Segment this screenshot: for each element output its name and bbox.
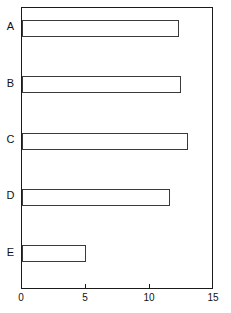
y-axis-tick-label: D [3, 190, 18, 201]
y-axis-tick-label: B [3, 78, 18, 89]
x-axis-tick [85, 284, 86, 289]
bar [22, 76, 181, 93]
x-axis-tick-label: 15 [207, 293, 218, 303]
bar [22, 20, 179, 37]
x-axis-tick-label: 5 [82, 293, 88, 303]
x-axis-tick [149, 284, 150, 289]
y-axis-tick-label: E [3, 247, 18, 258]
bar [22, 245, 86, 262]
y-axis-tick-label: C [3, 134, 18, 145]
plot-area [21, 7, 213, 289]
bar [22, 189, 170, 206]
y-axis-tick-label: A [3, 21, 18, 32]
x-axis-tick-label: 0 [18, 293, 24, 303]
bar-chart: ABCDE051015 [0, 0, 231, 313]
x-axis-tick-label: 10 [143, 293, 154, 303]
bar [22, 133, 188, 150]
